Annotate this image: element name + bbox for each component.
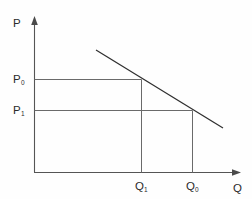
demand-curve-diagram: P Q P 0 P 1 Q 1 Q 0: [0, 0, 252, 199]
quantity-label-q0-subscript: 0: [195, 186, 199, 193]
x-axis-title: Q: [233, 182, 242, 194]
price-label-p1-base: P: [13, 104, 21, 116]
chart-canvas: P Q P 0 P 1 Q 1 Q 0: [0, 0, 252, 199]
x-axis-arrow-icon: [232, 169, 241, 176]
y-axis-title: P: [13, 17, 21, 29]
demand-curve-line: [96, 50, 223, 128]
quantity-label-q1-base: Q: [135, 180, 144, 192]
quantity-label-q0-base: Q: [186, 180, 195, 192]
quantity-label-q1-subscript: 1: [144, 186, 148, 193]
price-label-p0-subscript: 0: [21, 79, 25, 86]
price-label-p0-base: P: [13, 73, 21, 85]
price-label-p1-subscript: 1: [21, 110, 25, 117]
y-axis-arrow-icon: [31, 16, 38, 25]
